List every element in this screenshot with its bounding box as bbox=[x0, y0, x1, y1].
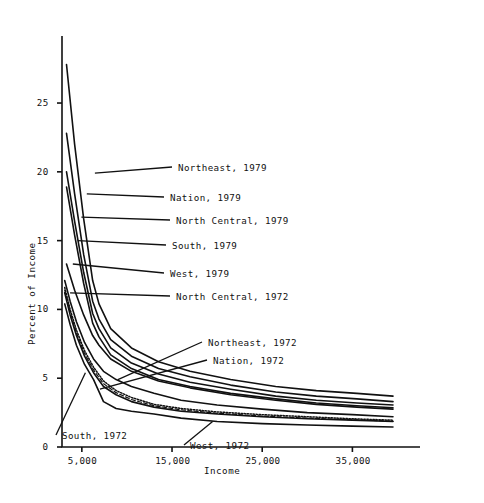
y-tick-label: 15 bbox=[37, 235, 49, 246]
chart-figure: Northeast, 1979Nation, 1979North Central… bbox=[0, 0, 484, 503]
series-label-west-1972: West, 1972 bbox=[190, 440, 249, 451]
y-tick-label: 10 bbox=[37, 303, 49, 314]
x-tick-label: 15,000 bbox=[155, 455, 190, 466]
series-line-north-central-1979 bbox=[67, 172, 393, 405]
x-axis-title: Income bbox=[204, 465, 240, 476]
series-label-northeast-1979: Northeast, 1979 bbox=[178, 162, 267, 173]
y-tick-label: 5 bbox=[42, 372, 48, 383]
chart-plot-area bbox=[0, 0, 484, 503]
series-label-nation-1972: Nation, 1972 bbox=[213, 355, 284, 366]
y-tick-label: 25 bbox=[37, 97, 49, 108]
leader-line-nation-1979 bbox=[87, 194, 164, 197]
y-tick-label: 0 bbox=[42, 441, 48, 452]
series-label-north-central-1972: North Central, 1972 bbox=[176, 291, 289, 302]
series-label-south-1972: South, 1972 bbox=[62, 430, 127, 441]
x-tick-label: 5,000 bbox=[68, 455, 97, 466]
series-label-south-1979: South, 1979 bbox=[172, 240, 237, 251]
leader-line-north-central-1979 bbox=[81, 217, 170, 220]
x-tick-label: 35,000 bbox=[336, 455, 371, 466]
series-label-west-1979: West, 1979 bbox=[170, 268, 229, 279]
series-label-northeast-1972: Northeast, 1972 bbox=[208, 337, 297, 348]
leader-line-south-1979 bbox=[78, 241, 166, 245]
chart-leader-lines bbox=[56, 167, 213, 445]
leader-line-south-1972 bbox=[56, 373, 85, 435]
y-tick-label: 20 bbox=[37, 166, 49, 177]
series-label-nation-1979: Nation, 1979 bbox=[170, 192, 241, 203]
series-label-north-central-1979: North Central, 1979 bbox=[176, 215, 289, 226]
x-tick-label: 25,000 bbox=[245, 455, 280, 466]
series-line-nation-1972 bbox=[65, 287, 393, 420]
leader-line-north-central-1972 bbox=[70, 293, 170, 296]
leader-line-northeast-1979 bbox=[95, 167, 172, 173]
y-axis-title: Percent of Income bbox=[26, 242, 37, 345]
